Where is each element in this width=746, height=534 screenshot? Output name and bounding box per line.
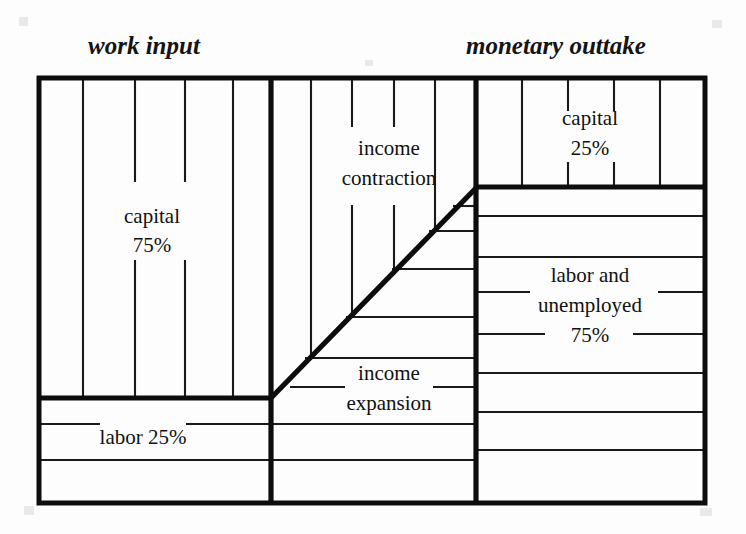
label-capital-left-pct: 75% (133, 233, 172, 257)
label-capital-right: capital (562, 106, 618, 130)
label-labor-right-line2: unemployed (538, 293, 642, 317)
panel-work-input: capital 75% labor 25% (39, 80, 272, 460)
label-labor-right-pct: 75% (571, 323, 610, 347)
work-input-monetary-outtake-diagram: work input monetary outtake capital 75% (0, 0, 746, 534)
label-income-expansion-line2: expansion (346, 391, 432, 415)
label-income-expansion-line1: income (358, 361, 420, 385)
middle-horizontal-hatch (272, 206, 478, 460)
label-income-contraction-line2: contraction (342, 166, 437, 190)
panel-transition: income contraction income expansion (270, 80, 478, 460)
label-capital-left: capital (124, 204, 180, 228)
panel-monetary-outtake: capital 25% labor and unemployed 75% (475, 80, 705, 450)
label-labor-right-line1: labor and (551, 263, 630, 287)
title-work-input: work input (88, 32, 201, 59)
title-monetary-outtake: monetary outtake (466, 32, 646, 59)
label-labor-left: labor 25% (100, 425, 187, 449)
right-vertical-hatch (522, 80, 660, 187)
label-income-contraction-line1: income (358, 136, 420, 160)
label-capital-right-pct: 25% (571, 136, 610, 160)
